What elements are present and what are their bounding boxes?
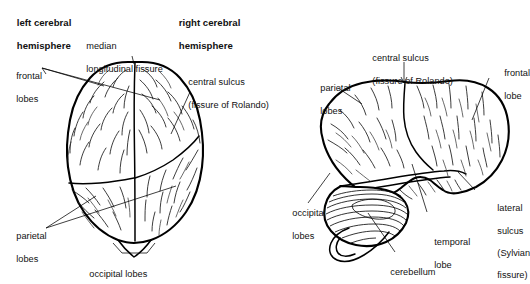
label-parietal-lobes-superior-line2: lobes	[16, 254, 38, 264]
label-occipital-lobes-lateral-line2: lobes	[292, 231, 314, 241]
label-lateral-sulcus-line4: fissure)	[497, 270, 527, 280]
label-lateral-sulcus-line3: (Sylvian	[497, 248, 530, 258]
label-parietal-lobes-superior-line1: parietal	[16, 231, 46, 241]
median-longitudinal-fissure-line	[134, 62, 135, 241]
label-frontal-lobes: frontal lobes	[6, 60, 42, 116]
label-left-cerebral-hemisphere: left cerebral hemisphere	[6, 5, 71, 63]
label-occipital-lobes-superior-line1: occipital lobes	[89, 269, 147, 279]
label-parietal-lobes-lateral-line2: lobes	[320, 106, 342, 116]
label-central-sulcus-superior: central sulcus (fissure of Rolando)	[178, 66, 269, 122]
label-parietal-lobes-superior: parietal lobes	[6, 220, 47, 276]
label-frontal-lobes-line2: lobes	[16, 94, 38, 104]
label-median-longitudinal-fissure: median longitudinal fissure	[76, 30, 163, 86]
label-central-sulcus-superior-line1: central sulcus	[188, 77, 244, 87]
label-central-sulcus-lateral: central sulcus (fissure of Rolando)	[362, 42, 453, 98]
label-central-sulcus-lateral-line2: (fissure of Rolando)	[372, 76, 453, 86]
label-right-cerebral-hemisphere-line1: right cerebral	[179, 17, 241, 28]
label-occipital-lobes-superior: occipital lobes	[79, 258, 147, 284]
label-right-cerebral-hemisphere-line2: hemisphere	[179, 40, 233, 51]
label-occipital-lobes-lateral-line1: occipital	[292, 208, 325, 218]
label-left-cerebral-hemisphere-line2: hemisphere	[17, 40, 71, 51]
label-central-sulcus-lateral-line1: central sulcus	[372, 53, 428, 63]
label-median-longitudinal-fissure-line2: longitudinal fissure	[86, 64, 163, 74]
label-cerebellum: cerebellum	[380, 256, 435, 284]
label-right-cerebral-hemisphere: right cerebral hemisphere	[168, 5, 240, 63]
label-parietal-lobes-lateral: parietal lobes	[310, 72, 351, 128]
label-temporal-lobe-lateral-line2: lobe	[434, 260, 451, 270]
label-occipital-lobes-lateral: occipital lobes	[282, 197, 326, 253]
label-median-longitudinal-fissure-line1: median	[86, 41, 116, 51]
label-lateral-sulcus-line2: sulcus	[497, 226, 523, 236]
label-frontal-lobe-lateral-line2: lobe	[504, 91, 521, 101]
label-lateral-sulcus: lateral sulcus (Sylvian fissure)	[487, 192, 530, 284]
label-frontal-lobes-line1: frontal	[16, 71, 42, 81]
label-left-cerebral-hemisphere-line1: left cerebral	[17, 17, 72, 28]
label-lateral-sulcus-line1: lateral	[497, 203, 522, 213]
label-temporal-lobe-lateral-line1: temporal	[434, 237, 470, 247]
label-frontal-lobe-lateral: frontal lobe	[494, 57, 530, 113]
label-central-sulcus-superior-line2: (fissure of Rolando)	[188, 100, 269, 110]
label-parietal-lobes-lateral-line1: parietal	[320, 83, 350, 93]
label-frontal-lobe-lateral-line1: frontal	[504, 68, 530, 78]
label-cerebellum-line1: cerebellum	[390, 267, 435, 277]
